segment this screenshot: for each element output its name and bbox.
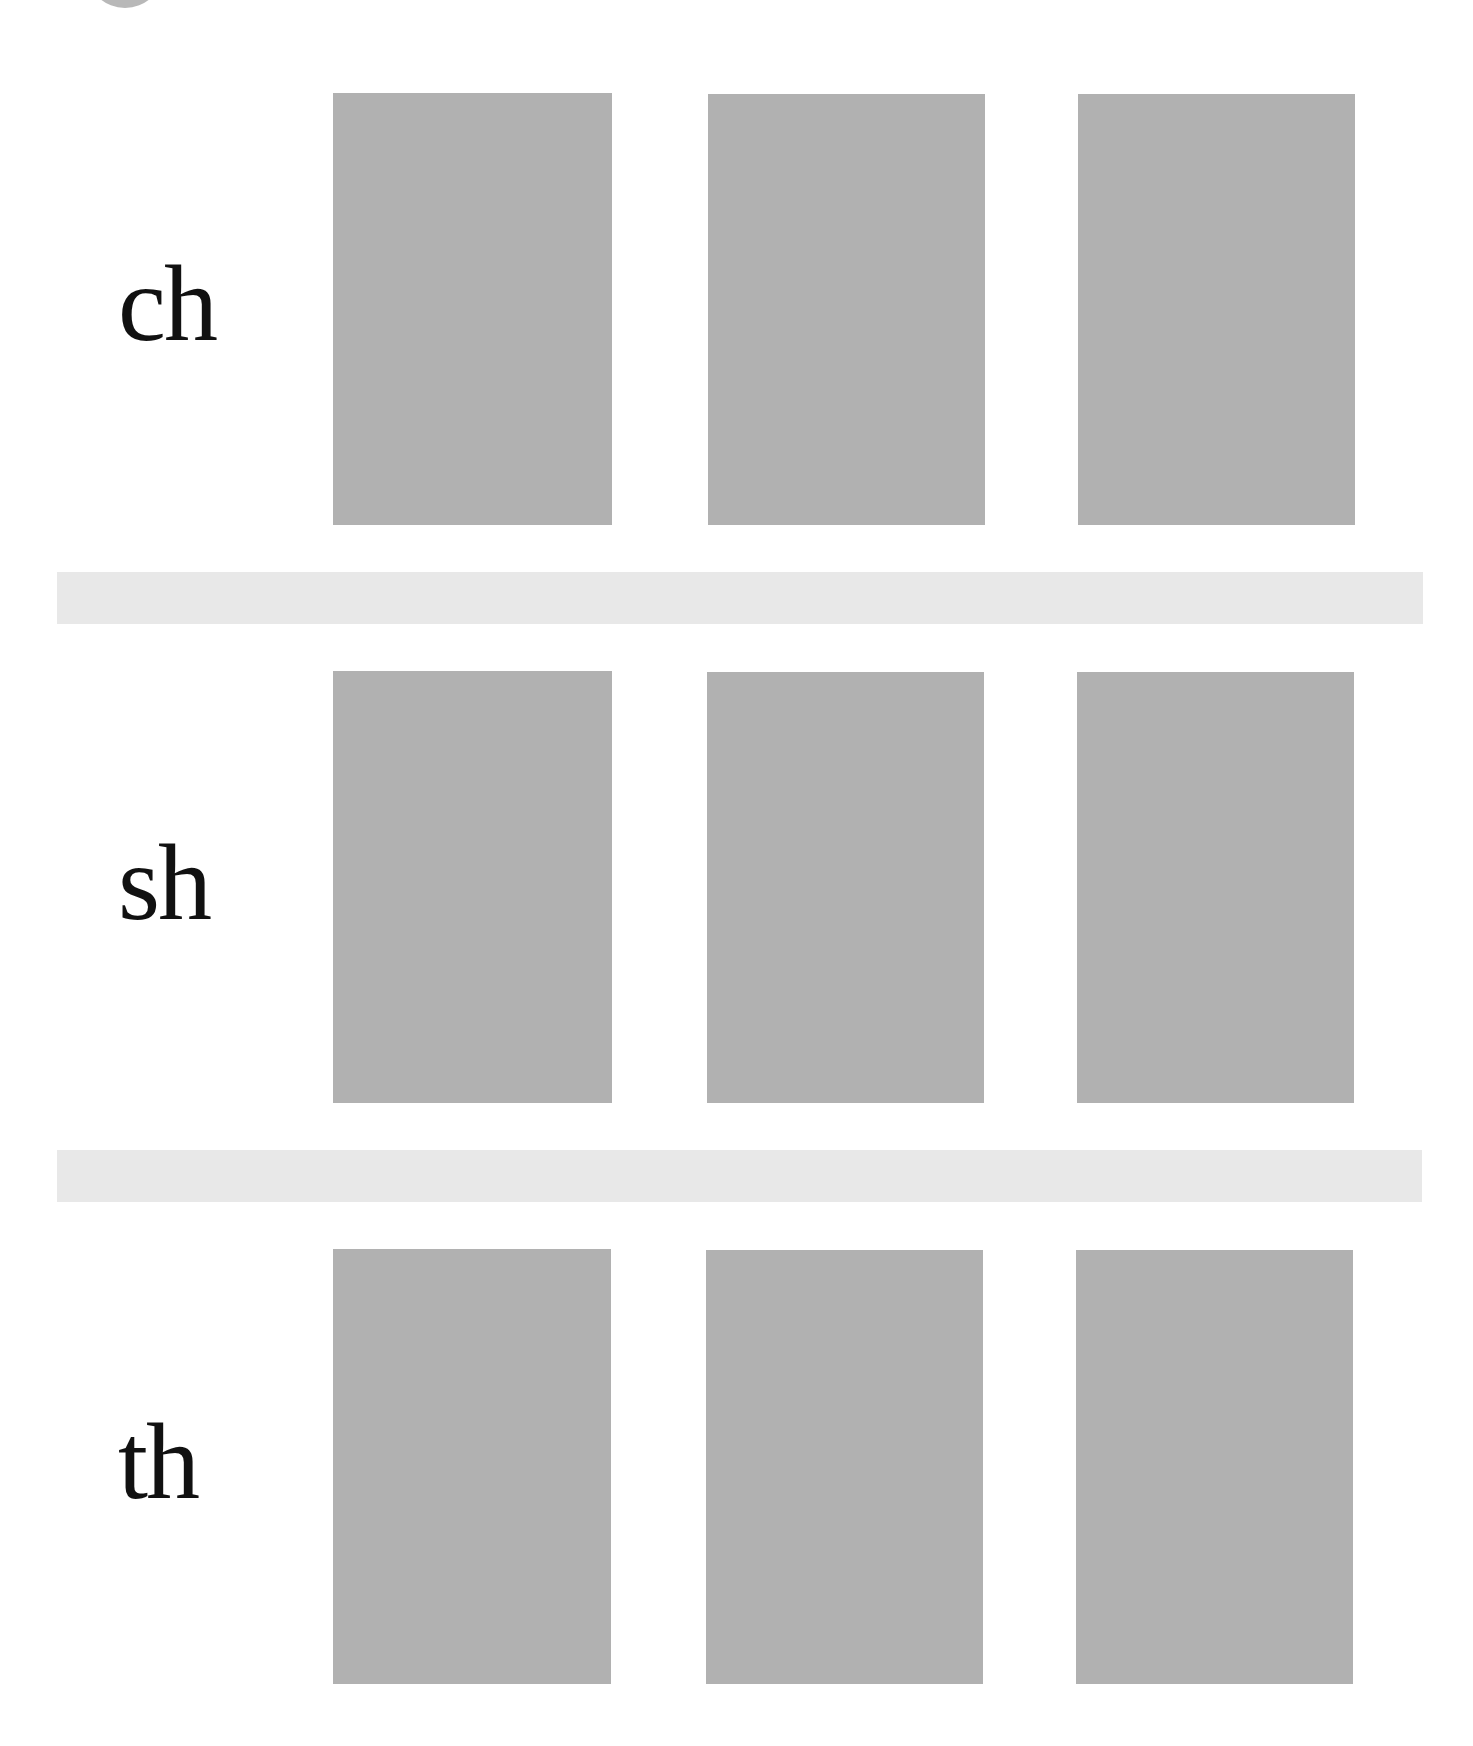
- picture-box-3[interactable]: [1077, 672, 1354, 1103]
- picture-box-1[interactable]: [333, 671, 612, 1103]
- row-divider: [57, 1150, 1422, 1202]
- row-label: th: [118, 1408, 318, 1516]
- picture-box-3[interactable]: [1078, 94, 1355, 525]
- picture-box-1[interactable]: [333, 1249, 611, 1684]
- row-divider: [57, 572, 1423, 624]
- picture-box-3[interactable]: [1076, 1250, 1353, 1684]
- picture-box-2[interactable]: [707, 672, 984, 1103]
- picture-box-1[interactable]: [333, 93, 612, 525]
- picture-box-2[interactable]: [708, 94, 985, 525]
- row-label: ch: [118, 250, 318, 358]
- row-label: sh: [118, 829, 318, 937]
- picture-box-2[interactable]: [706, 1250, 983, 1684]
- corner-circle-decoration: [88, 0, 162, 8]
